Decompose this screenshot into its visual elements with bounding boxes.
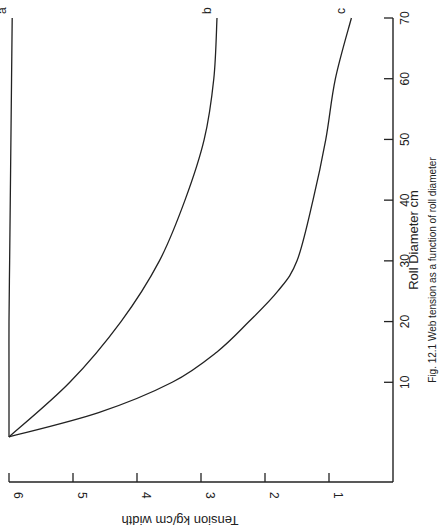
- tension-tick-label: 1: [331, 492, 345, 499]
- curve-c: [9, 18, 351, 437]
- tension-tick-label: 6: [11, 492, 25, 499]
- diameter-tick-label: 10: [398, 375, 412, 389]
- tension-tick-label: 2: [267, 492, 281, 499]
- tension-axis-ticks: 123456: [9, 473, 345, 499]
- tension-tick-label: 4: [139, 492, 153, 499]
- diameter-tick-label: 20: [398, 315, 412, 329]
- curve-a-label: a: [0, 7, 9, 14]
- axes: [9, 18, 393, 482]
- curve-a: [9, 18, 12, 437]
- curve-c-label: c: [334, 8, 348, 14]
- tension-vs-roll-diameter-chart: 123456 10203040506070 abc Tension kg/cm …: [0, 0, 439, 529]
- curve-b-label: b: [200, 7, 214, 14]
- x-axis-title: Roll Diameter cm: [406, 190, 421, 290]
- tension-tick-label: 5: [75, 492, 89, 499]
- tension-tick-label: 3: [203, 492, 217, 499]
- diameter-tick-label: 70: [398, 11, 412, 25]
- curves: abc: [0, 7, 351, 437]
- y-axis-title: Tension kg/cm width: [121, 513, 238, 528]
- figure-caption: Fig. 12.1 Web tension as a function of r…: [427, 157, 438, 383]
- diameter-tick-label: 60: [398, 72, 412, 86]
- diameter-tick-label: 50: [398, 132, 412, 146]
